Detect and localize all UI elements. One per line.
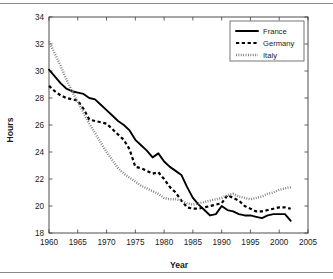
legend-label-france: France [263,27,287,36]
x-tick-label-1965: 1965 [69,238,88,247]
legend-label-italy: Italy [263,51,277,60]
x-tick-label-2005: 2005 [299,238,318,247]
legend-label-germany: Germany [263,39,294,48]
x-tick-label-2000: 2000 [270,238,289,247]
y-tick-label-30: 30 [35,67,45,76]
x-tick-label-1975: 1975 [126,238,145,247]
x-tick-label-1980: 1980 [155,238,174,247]
y-axis-title: Hours [5,117,15,142]
x-tick-label-1990: 1990 [213,238,232,247]
bottom-divider-rule [0,272,333,273]
y-tick-label-20: 20 [35,202,45,211]
data-series-group [49,41,291,221]
y-tick-label-34: 34 [35,13,45,22]
series-line-france [49,70,291,221]
x-tick-label-1995: 1995 [241,238,260,247]
x-axis-tick-labels: 1960196519701975198019851990199520002005 [40,238,318,247]
top-divider-rule [0,3,333,4]
line-chart-plot: 1960196519701975198019851990199520002005… [0,0,333,279]
y-tick-label-22: 22 [35,175,45,184]
y-axis-tick-labels: 182022242628303234 [35,13,45,238]
x-tick-label-1970: 1970 [97,238,116,247]
y-tick-label-18: 18 [35,229,45,238]
y-tick-label-26: 26 [35,121,45,130]
chart-legend: FranceGermanyItaly [230,21,304,61]
chart-figure: 1960196519701975198019851990199520002005… [0,0,333,279]
x-tick-label-1960: 1960 [40,238,59,247]
x-tick-label-1985: 1985 [184,238,203,247]
x-axis-title: Year [170,260,189,270]
y-tick-label-24: 24 [35,148,45,157]
y-tick-label-28: 28 [35,94,45,103]
series-line-germany [49,86,291,212]
y-tick-label-32: 32 [35,40,45,49]
series-line-italy [49,41,291,204]
